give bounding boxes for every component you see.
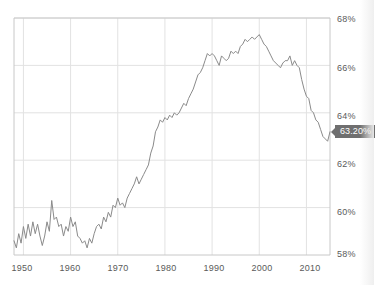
x-axis-tick-1: 1960: [60, 263, 81, 273]
x-axis-tick-2: 1970: [108, 263, 129, 273]
value-callout-badge: 63.20%: [335, 125, 375, 138]
y-axis-tick-0: 68%: [337, 14, 356, 24]
x-axis-tick-6: 2010: [300, 263, 321, 273]
x-axis-tick-4: 1990: [204, 263, 225, 273]
y-axis-tick-2: 64%: [337, 111, 356, 121]
y-axis-tick-4: 60%: [337, 207, 356, 217]
x-axis-tick-0: 1950: [12, 263, 33, 273]
x-axis-tick-3: 1980: [156, 263, 177, 273]
y-axis-tick-1: 66%: [337, 63, 356, 73]
series-line-labor-force-participation: [14, 35, 330, 248]
gridlines: [14, 18, 330, 255]
axis-lines: [14, 18, 330, 255]
y-axis-tick-3: 62%: [337, 159, 356, 169]
y-axis-tick-5: 58%: [337, 249, 356, 259]
x-axis-tick-5: 2000: [252, 263, 273, 273]
